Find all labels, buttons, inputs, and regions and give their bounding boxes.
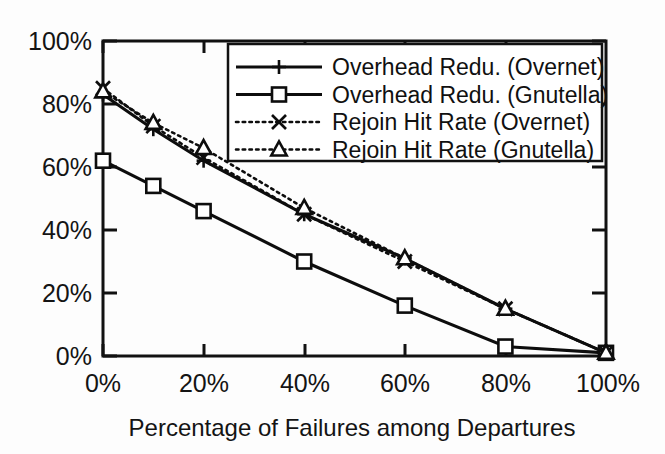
marker-square bbox=[197, 204, 211, 218]
x-tick-label-40: 40% bbox=[280, 369, 330, 397]
marker-triangle bbox=[95, 83, 110, 97]
x-tick-label-80: 80% bbox=[481, 369, 531, 397]
marker-square bbox=[398, 299, 412, 313]
x-tick-label-60: 60% bbox=[380, 369, 430, 397]
x-tick-label-100: 100% bbox=[576, 369, 640, 397]
line-chart: 100% 80% 60% 40% 20% 0% 0% 20% 40% 60% 8… bbox=[0, 0, 665, 454]
y-tick-label-60: 60% bbox=[42, 153, 92, 181]
marker-square bbox=[272, 88, 286, 102]
x-tick-label-0: 0% bbox=[85, 369, 121, 397]
marker-square bbox=[146, 179, 160, 193]
legend-label: Rejoin Hit Rate (Gnutella) bbox=[332, 137, 594, 163]
chart-figure: 100% 80% 60% 40% 20% 0% 0% 20% 40% 60% 8… bbox=[0, 0, 665, 454]
series-line bbox=[103, 161, 606, 353]
y-tick-label-20: 20% bbox=[42, 279, 92, 307]
x-axis-title: Percentage of Failures among Departures bbox=[129, 414, 576, 441]
y-tick-label-0: 0% bbox=[56, 342, 92, 370]
y-tick-label-40: 40% bbox=[42, 216, 92, 244]
series-1 bbox=[96, 154, 613, 360]
legend-label: Rejoin Hit Rate (Overnet) bbox=[332, 109, 590, 135]
marker-square bbox=[297, 255, 311, 269]
y-tick-label-80: 80% bbox=[42, 90, 92, 118]
marker-triangle bbox=[196, 140, 211, 154]
marker-square bbox=[96, 154, 110, 168]
legend-label: Overhead Redu. (Gnutella) bbox=[332, 82, 608, 108]
legend-label: Overhead Redu. (Overnet) bbox=[332, 54, 604, 80]
marker-triangle bbox=[297, 200, 312, 214]
marker-square bbox=[498, 340, 512, 354]
y-tick-label-100: 100% bbox=[28, 27, 92, 55]
x-tick-label-20: 20% bbox=[179, 369, 229, 397]
